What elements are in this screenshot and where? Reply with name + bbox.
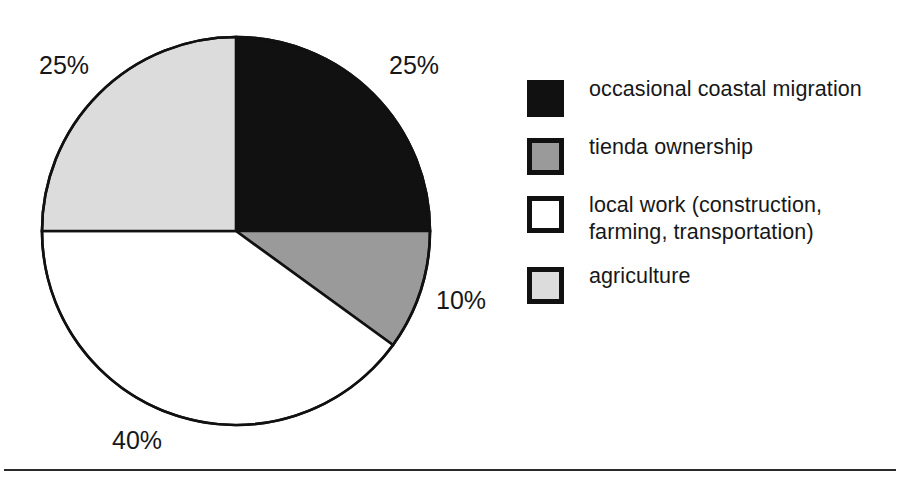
pie-label-localwork-percent: 40% [112,428,162,453]
pie-label-tienda-percent: 10% [436,288,486,313]
legend-swatch-white [527,196,564,233]
pie-label-migration-percent: 25% [389,53,439,78]
pie-slices-group [42,37,430,425]
legend-swatch-lightgray [527,267,564,304]
footer-divider-rule [4,469,896,471]
legend-item-local-work: local work (construction, farming, trans… [527,192,887,246]
pie-chart-figure: 25% 25% 10% 40% occasional coastal migra… [0,0,900,488]
legend-label-agriculture: agriculture [589,263,690,290]
chart-legend: occasional coastal migration tienda owne… [527,76,887,321]
legend-item-agriculture: agriculture [527,263,887,304]
legend-item-tienda-ownership: tienda ownership [527,134,887,175]
legend-swatch-black [527,80,564,117]
legend-item-occasional-coastal-migration: occasional coastal migration [527,76,887,117]
pie-label-agriculture-percent: 25% [39,53,89,78]
legend-label-tienda-ownership: tienda ownership [589,134,753,161]
legend-label-local-work: local work (construction, farming, trans… [589,192,887,246]
legend-label-occasional-coastal-migration: occasional coastal migration [589,76,862,103]
legend-swatch-gray [527,138,564,175]
